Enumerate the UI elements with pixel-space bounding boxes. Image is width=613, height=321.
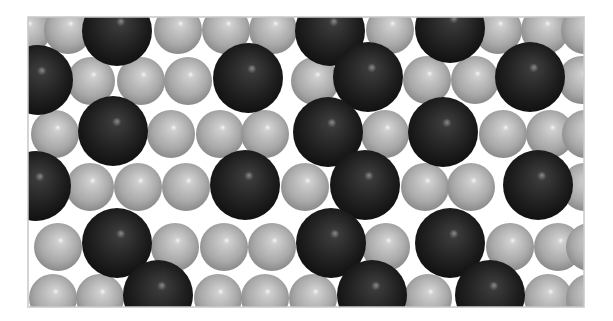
light-atom-sphere [196, 110, 244, 158]
sphere-packing-figure [0, 0, 613, 321]
light-atom-sphere [147, 110, 195, 158]
light-atom-sphere [34, 223, 82, 271]
dark-atom-sphere [78, 96, 148, 166]
light-atom-sphere [114, 163, 162, 211]
dark-atom-sphere [210, 150, 280, 220]
light-atom-sphere [451, 56, 499, 104]
light-atom-sphere [281, 163, 329, 211]
light-atom-sphere [447, 163, 495, 211]
light-atom-sphere [248, 223, 296, 271]
dark-atom-sphere [213, 43, 283, 113]
light-atom-sphere [403, 56, 451, 104]
light-atom-sphere [66, 163, 114, 211]
light-atom-sphere [162, 163, 210, 211]
light-atom-sphere [479, 110, 527, 158]
light-atom-sphere [31, 110, 79, 158]
light-atom-sphere [164, 57, 212, 105]
dark-atom-sphere [503, 150, 573, 220]
dark-atom-sphere [495, 42, 565, 112]
dark-atom-sphere [408, 97, 478, 167]
light-atom-sphere [401, 163, 449, 211]
light-atom-sphere [200, 223, 248, 271]
